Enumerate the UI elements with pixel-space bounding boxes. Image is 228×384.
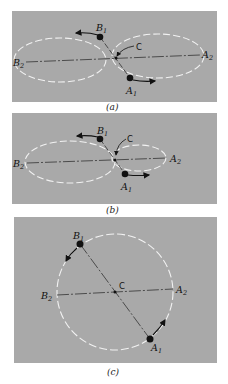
- caption-c: (c): [107, 367, 120, 377]
- center-point: [114, 291, 117, 294]
- velocity-arrow-a1: [128, 175, 149, 176]
- panel-b: C B1 A1 B2 A2: [12, 113, 217, 204]
- caption-b: (b): [106, 205, 119, 215]
- center-of-mass-point: [115, 57, 118, 60]
- label-c: C: [136, 42, 142, 52]
- label-c: C: [119, 281, 125, 291]
- label-c: C: [127, 134, 133, 144]
- binary-orbit-figure: C B1 A1 B2 A2 (a) C B1 A1 B2 A2 (b): [0, 0, 228, 384]
- star-a1: [122, 171, 129, 178]
- caption-a: (a): [106, 102, 119, 112]
- star-a1: [127, 75, 134, 82]
- panel-c: C B1 A1 B2 A2: [14, 217, 217, 363]
- center-of-mass-point: [114, 159, 117, 162]
- panel-a: C B1 A1 B2 A2: [12, 11, 217, 102]
